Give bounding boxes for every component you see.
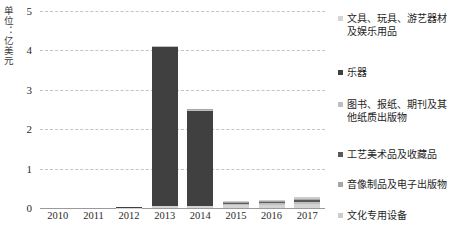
bar-series-container (40, 11, 325, 208)
bar-stack[interactable] (116, 207, 142, 208)
x-tick-label: 2012 (119, 210, 140, 221)
legend-swatch-icon (338, 102, 343, 107)
bar-stack[interactable] (187, 109, 213, 208)
legend-label: 文具、玩具、游艺器材及娱乐用品 (347, 12, 455, 38)
legend-label: 图书、报纸、期刊及其他纸质出版物 (347, 98, 455, 124)
x-tick-label: 2017 (297, 210, 318, 221)
bar-stack[interactable] (152, 46, 178, 208)
y-tick-label: 2 (27, 123, 33, 135)
x-tick-label: 2010 (47, 210, 68, 221)
legend-swatch-icon (338, 70, 343, 75)
x-axis-tick-labels: 20102011201220132014201520162017 (40, 210, 325, 230)
y-tick-label: 4 (27, 44, 33, 56)
bar-segment[interactable] (187, 111, 213, 206)
x-tick-label: 2013 (154, 210, 175, 221)
x-tick-label: 2014 (190, 210, 211, 221)
legend-item[interactable]: 文具、玩具、游艺器材及娱乐用品 (338, 12, 455, 38)
legend-item[interactable]: 文化专用设备 (338, 209, 407, 222)
legend-item[interactable]: 工艺美术品及收藏品 (338, 148, 437, 161)
legend-item[interactable]: 图书、报纸、期刊及其他纸质出版物 (338, 98, 455, 124)
x-tick-label: 2016 (261, 210, 282, 221)
bar-segment[interactable] (152, 47, 178, 207)
legend-swatch-icon (338, 152, 343, 157)
x-tick-label: 2011 (83, 210, 104, 221)
legend-swatch-icon (338, 182, 343, 187)
bar-segment[interactable] (259, 205, 285, 208)
y-tick-label: 5 (27, 5, 33, 17)
legend-label: 工艺美术品及收藏品 (347, 148, 437, 161)
bar-stack[interactable] (259, 200, 285, 208)
bar-segment[interactable] (223, 205, 249, 208)
chart-legend: 文具、玩具、游艺器材及娱乐用品乐器图书、报纸、期刊及其他纸质出版物工艺美术品及收… (338, 6, 456, 236)
x-axis-line (40, 208, 325, 209)
legend-label: 音像制品及电子出版物 (347, 178, 447, 191)
y-axis-tick-labels: 012345 (0, 0, 36, 241)
bar-stack[interactable] (294, 197, 320, 208)
legend-swatch-icon (338, 213, 343, 218)
bar-segment[interactable] (187, 206, 213, 208)
plot-area (40, 11, 325, 208)
legend-item[interactable]: 乐器 (338, 66, 367, 79)
bar-segment[interactable] (152, 206, 178, 208)
legend-label: 乐器 (347, 66, 367, 79)
bar-segment[interactable] (294, 204, 320, 208)
x-tick-label: 2015 (225, 210, 246, 221)
y-tick-label: 3 (27, 84, 33, 96)
y-tick-label: 0 (27, 202, 33, 214)
y-tick-label: 1 (27, 163, 33, 175)
bar-stack[interactable] (223, 201, 249, 208)
legend-label: 文化专用设备 (347, 209, 407, 222)
legend-swatch-icon (338, 16, 343, 21)
legend-item[interactable]: 音像制品及电子出版物 (338, 178, 447, 191)
chart-root: 单位：亿美元 012345 20102011201220132014201520… (0, 0, 457, 241)
